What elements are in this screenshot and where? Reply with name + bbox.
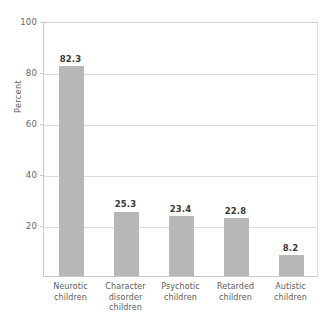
y-tick-label: 60 xyxy=(11,119,37,129)
x-tick-label-line: children xyxy=(98,303,154,314)
bar xyxy=(279,255,304,276)
x-tick-label-line: Retarded xyxy=(208,282,264,293)
x-tick-label-line: children xyxy=(153,293,209,304)
y-tick-label: 80 xyxy=(11,68,37,78)
y-tick-label: 40 xyxy=(11,170,37,180)
bar-value-label: 22.8 xyxy=(212,206,260,216)
bar xyxy=(224,218,249,276)
y-tick-label: 100 xyxy=(11,17,37,27)
x-tick-label-line: Neurotic xyxy=(43,282,99,293)
gridline xyxy=(44,125,317,126)
bar-value-label: 25.3 xyxy=(102,199,150,209)
x-tick-label-line: children xyxy=(263,293,319,304)
bar-value-label: 23.4 xyxy=(157,204,205,214)
bar-value-label: 8.2 xyxy=(267,243,315,253)
x-tick-label: Psychoticchildren xyxy=(153,282,209,303)
bar xyxy=(59,66,84,276)
x-tick-label: Autisticchildren xyxy=(263,282,319,303)
gridline xyxy=(44,74,317,75)
x-tick-label: Retardedchildren xyxy=(208,282,264,303)
x-tick-label-line: children xyxy=(43,293,99,304)
bar xyxy=(114,212,139,277)
clipped-caption-text xyxy=(0,0,333,13)
bar-chart-figure: Percent 20406080100 82.325.323.422.88.2 … xyxy=(0,0,333,321)
x-tick-label-line: disorder xyxy=(98,293,154,304)
x-tick-label-line: children xyxy=(208,293,264,304)
x-tick-label-line: Autistic xyxy=(263,282,319,293)
x-tick-label: Characterdisorderchildren xyxy=(98,282,154,314)
y-tick-label: 20 xyxy=(11,221,37,231)
x-tick-label-line: Psychotic xyxy=(153,282,209,293)
x-tick-label: Neuroticchildren xyxy=(43,282,99,303)
bar-value-label: 82.3 xyxy=(47,54,95,64)
gridline xyxy=(44,176,317,177)
x-tick-label-line: Character xyxy=(98,282,154,293)
bar xyxy=(169,216,194,276)
